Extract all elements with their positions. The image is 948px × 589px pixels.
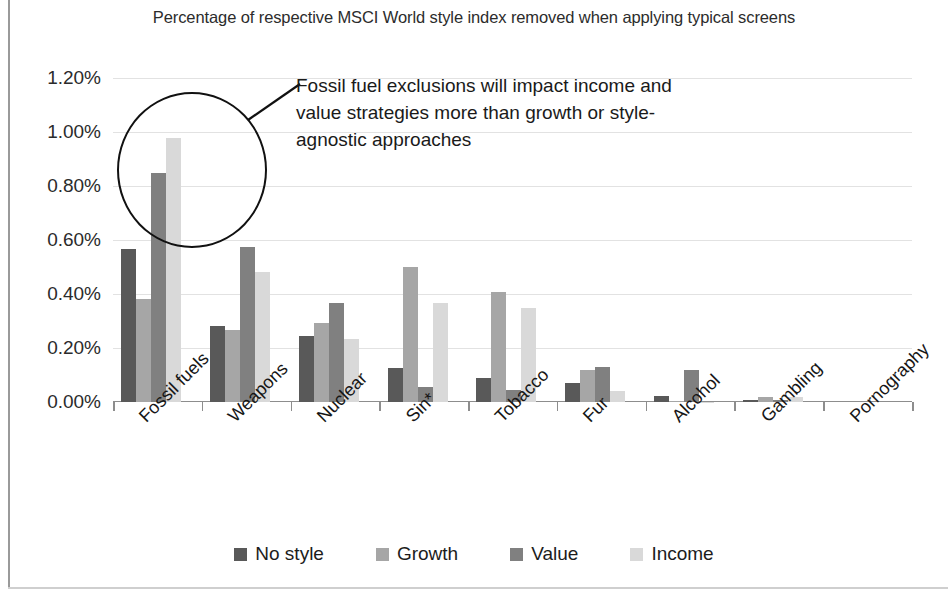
bar[interactable] bbox=[403, 267, 418, 402]
y-axis-tick-label: 1.20% bbox=[47, 67, 101, 89]
bar[interactable] bbox=[491, 292, 506, 402]
bar[interactable] bbox=[565, 383, 580, 402]
x-axis-tick bbox=[379, 402, 381, 411]
chart-legend: No styleGrowthValueIncome bbox=[0, 543, 948, 565]
x-axis-tick bbox=[113, 402, 115, 411]
y-axis-tick-label: 0.40% bbox=[47, 283, 101, 305]
bar[interactable] bbox=[136, 299, 151, 402]
legend-label: No style bbox=[255, 543, 324, 565]
x-axis-tick bbox=[912, 402, 914, 411]
bar[interactable] bbox=[654, 396, 669, 402]
y-axis-tick-label: 1.00% bbox=[47, 121, 101, 143]
legend-label: Value bbox=[531, 543, 578, 565]
legend-swatch-icon bbox=[630, 548, 643, 561]
legend-item[interactable]: No style bbox=[234, 543, 324, 565]
bar[interactable] bbox=[299, 336, 314, 402]
legend-swatch-icon bbox=[510, 548, 523, 561]
x-axis-tick bbox=[646, 402, 648, 411]
legend-item[interactable]: Value bbox=[510, 543, 578, 565]
bar[interactable] bbox=[433, 303, 448, 402]
x-axis-tick bbox=[823, 402, 825, 411]
y-axis-tick-label: 0.00% bbox=[47, 391, 101, 413]
legend-item[interactable]: Growth bbox=[376, 543, 458, 565]
x-axis-tick bbox=[468, 402, 470, 411]
legend-item[interactable]: Income bbox=[630, 543, 713, 565]
bar[interactable] bbox=[743, 400, 758, 402]
x-axis-tick bbox=[557, 402, 559, 411]
y-axis-tick-label: 0.80% bbox=[47, 175, 101, 197]
bar[interactable] bbox=[225, 330, 240, 402]
x-axis-tick bbox=[291, 402, 293, 411]
chart-screenshot: Percentage of respective MSCI World styl… bbox=[0, 0, 948, 589]
bar[interactable] bbox=[151, 173, 166, 402]
bar[interactable] bbox=[240, 247, 255, 402]
x-axis-tick bbox=[202, 402, 204, 411]
bar-group bbox=[823, 78, 912, 402]
bar[interactable] bbox=[314, 323, 329, 402]
bar[interactable] bbox=[388, 368, 403, 402]
bar-group bbox=[113, 78, 202, 402]
bar-group bbox=[202, 78, 291, 402]
y-axis-tick-label: 0.60% bbox=[47, 229, 101, 251]
legend-swatch-icon bbox=[376, 548, 389, 561]
chart-annotation-text: Fossil fuel exclusions will impact incom… bbox=[296, 72, 706, 153]
bar[interactable] bbox=[166, 138, 181, 402]
legend-label: Growth bbox=[397, 543, 458, 565]
chart-title: Percentage of respective MSCI World styl… bbox=[0, 8, 948, 27]
legend-label: Income bbox=[651, 543, 713, 565]
y-axis-tick-label: 0.20% bbox=[47, 337, 101, 359]
page-border-left bbox=[8, 0, 10, 589]
bar[interactable] bbox=[610, 391, 625, 402]
bar[interactable] bbox=[476, 378, 491, 402]
x-axis-tick bbox=[734, 402, 736, 411]
legend-swatch-icon bbox=[234, 548, 247, 561]
bar-group bbox=[734, 78, 823, 402]
bar[interactable] bbox=[121, 249, 136, 402]
